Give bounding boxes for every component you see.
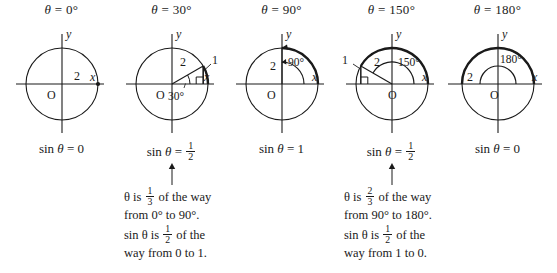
- note-fraction: 2 3: [366, 186, 375, 207]
- equals-sign: =: [271, 2, 279, 17]
- sin-prefix: sin: [475, 141, 490, 156]
- angle-value: 0°: [66, 2, 78, 17]
- note-right-line-3: sin θ is 1 2 of the: [344, 224, 432, 245]
- sin-result: 0: [514, 141, 521, 156]
- circle-diagram-theta-0: x y O 2: [6, 20, 117, 135]
- note-text: of the way: [379, 190, 432, 204]
- note-left-line-3: sin θ is 1 2 of the: [124, 224, 211, 245]
- note-text: of the way: [159, 190, 212, 204]
- sin-equals: =: [503, 141, 510, 156]
- sin-prefix: sin: [39, 141, 54, 156]
- equals-sign: =: [378, 2, 386, 17]
- opposite-side-label: 1: [342, 53, 348, 68]
- hypotenuse-label: 2: [180, 55, 186, 70]
- opposite-side-label: 1: [212, 53, 218, 68]
- sin-value-theta-0: sin θ = 0: [6, 141, 117, 157]
- y-axis-label: y: [396, 27, 401, 42]
- origin-label: O: [267, 88, 276, 103]
- note-text: sin θ is: [344, 227, 379, 241]
- angle-value: 150°: [389, 2, 415, 17]
- note-fraction: 1 2: [163, 224, 172, 245]
- sin-equals: =: [395, 144, 402, 159]
- fraction-denominator: 2: [163, 234, 172, 245]
- note-right-line-1: θ is 2 3 of the way: [344, 186, 432, 207]
- panel-theta-180: θ = 180° x y O 2 180° sin θ = 0: [442, 0, 553, 180]
- note-left-line-2: from 0° to 90°.: [124, 207, 211, 224]
- fraction-numerator: 1: [383, 224, 392, 234]
- equals-sign: =: [55, 2, 63, 17]
- circle-diagram-theta-180: x y O 2 180°: [442, 20, 553, 135]
- angle-arc-label: 90°: [288, 56, 304, 68]
- fraction-numerator: 1: [146, 186, 155, 196]
- hypotenuse-label: 2: [270, 59, 276, 74]
- x-axis-label: x: [90, 70, 95, 85]
- angle-arc: [188, 75, 190, 84]
- angle-arc-label: 180°: [500, 53, 522, 65]
- angle-value: 30°: [173, 2, 192, 17]
- note-left: θ is 1 3 of the way from 0° to 90°. sin …: [124, 186, 211, 262]
- note-text: θ is: [344, 190, 361, 204]
- radius-label: 2: [74, 69, 80, 84]
- fraction-denominator: 2: [383, 234, 392, 245]
- y-axis-label: y: [286, 27, 291, 42]
- equals-sign: =: [484, 2, 492, 17]
- hypotenuse-label: 2: [374, 55, 380, 70]
- fraction-denominator: 2: [186, 151, 195, 162]
- sin-result-fraction: 1 2: [186, 141, 195, 163]
- sin-theta-symbol: θ: [493, 141, 499, 156]
- note-text: of the: [176, 227, 205, 241]
- equals-sign: =: [161, 2, 169, 17]
- fraction-denominator: 3: [366, 196, 375, 207]
- x-axis-label: x: [312, 70, 317, 85]
- panel-theta-0: θ = 0° x y O 2 sin θ = 0: [6, 0, 117, 180]
- theta-symbol: θ: [368, 2, 375, 17]
- circle-diagram-theta-150: x y O 2 1 150°: [336, 20, 447, 135]
- circle-diagram-theta-90: x y O 2 90°: [226, 20, 337, 135]
- panel-title-theta-90: θ = 90°: [226, 2, 337, 18]
- sin-prefix: sin: [259, 141, 274, 156]
- note-left-line-4: way from 0 to 1.: [124, 245, 211, 262]
- sin-value-theta-90: sin θ = 1: [226, 141, 337, 157]
- x-axis-label: x: [532, 70, 537, 85]
- angle-value: 90°: [283, 2, 302, 17]
- panel-title-theta-180: θ = 180°: [442, 2, 553, 18]
- sin-theta-symbol: θ: [57, 141, 63, 156]
- origin-label: O: [156, 88, 165, 103]
- note-text: of the: [396, 227, 425, 241]
- fraction-numerator: 1: [406, 141, 415, 151]
- origin-label: O: [388, 88, 397, 103]
- x-axis-label: x: [204, 70, 209, 85]
- note-fraction: 1 3: [146, 186, 155, 207]
- origin-label: O: [490, 88, 499, 103]
- fraction-numerator: 1: [186, 141, 195, 151]
- radius-label: 2: [467, 70, 473, 85]
- note-fraction: 1 2: [383, 224, 392, 245]
- note-right-line-4: way from 1 to 0.: [344, 245, 432, 262]
- sin-equals: =: [67, 141, 74, 156]
- fraction-numerator: 1: [163, 224, 172, 234]
- terminal-point: [96, 82, 100, 86]
- circle-diagram-theta-30: x y O 2 1 30°: [116, 20, 227, 135]
- x-axis-label: x: [422, 70, 427, 85]
- y-axis-label: y: [176, 27, 181, 42]
- y-axis-label: y: [66, 27, 71, 42]
- sin-value-theta-180: sin θ = 0: [442, 141, 553, 157]
- leader-line: [353, 64, 359, 68]
- panel-theta-150: θ = 150° x y O 2 1 150° sin θ: [336, 0, 447, 180]
- sin-result-fraction: 1 2: [406, 141, 415, 163]
- sin-theta-symbol: θ: [385, 144, 391, 159]
- sin-result: 0: [78, 141, 85, 156]
- sin-theta-symbol: θ: [277, 141, 283, 156]
- sin-value-theta-150: sin θ = 1 2: [336, 141, 447, 163]
- note-right: θ is 2 3 of the way from 90° to 180°. si…: [344, 186, 432, 262]
- note-text: θ is: [124, 190, 141, 204]
- sin-theta-symbol: θ: [165, 144, 171, 159]
- angle-arc-label: 150°: [398, 56, 420, 68]
- right-angle-marker: [196, 77, 203, 84]
- theta-symbol: θ: [151, 2, 158, 17]
- sin-result: 1: [298, 141, 305, 156]
- panel-theta-90: θ = 90° x y O 2 90° sin θ = 1: [226, 0, 337, 180]
- note-left-line-1: θ is 1 3 of the way: [124, 186, 211, 207]
- panel-title-theta-150: θ = 150°: [336, 2, 447, 18]
- sin-prefix: sin: [367, 144, 382, 159]
